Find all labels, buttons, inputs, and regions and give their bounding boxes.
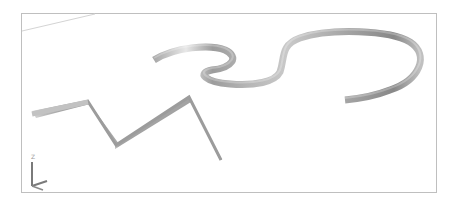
y-axis-icon (32, 186, 43, 190)
s-curve-ribbon[interactable] (154, 30, 420, 100)
zigzag-ribbon[interactable] (32, 97, 222, 160)
model-space-canvas[interactable]: Z (0, 0, 452, 205)
z-axis-label: Z (31, 153, 35, 160)
ucs-icon: Z (31, 153, 47, 190)
x-axis-icon (32, 181, 47, 186)
reference-line[interactable] (22, 14, 95, 31)
3d-viewport[interactable]: Z (0, 0, 452, 205)
